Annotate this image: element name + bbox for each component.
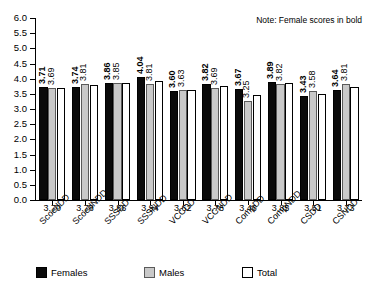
y-axis-tick: [30, 139, 35, 140]
y-axis-tick: [30, 79, 35, 80]
y-axis-tick-label: 5.0: [0, 43, 27, 53]
y-axis-tick-label: 3.5: [0, 89, 27, 99]
bar-value-label: 3.58: [308, 71, 317, 89]
bar-value-label: 3.81: [79, 64, 88, 82]
bar-males[interactable]: [309, 91, 317, 200]
bar-males[interactable]: [146, 84, 154, 200]
bar-group: 3.823.69: [199, 18, 232, 200]
y-axis-tick-label: 1.5: [0, 150, 27, 160]
bar-total[interactable]: [57, 88, 65, 200]
bar-total[interactable]: [220, 86, 228, 200]
bar-value-label: 3.69: [210, 68, 219, 86]
bar-group: 4.043.81: [134, 18, 167, 200]
bar-group: 3.433.58: [297, 18, 330, 200]
y-axis-tick-label: 0.0: [0, 195, 27, 205]
bar-males[interactable]: [179, 90, 187, 200]
y-axis-tick: [30, 124, 35, 125]
y-axis-tick: [30, 109, 35, 110]
bar-females[interactable]: [300, 96, 308, 200]
bar-total[interactable]: [285, 83, 293, 200]
bar-females[interactable]: [72, 87, 80, 200]
y-axis-tick-label: 4.5: [0, 59, 27, 69]
y-axis-tick-label: 0.5: [0, 180, 27, 190]
bar-value-label: 3.69: [47, 68, 56, 86]
y-axis-tick: [30, 33, 35, 34]
bar-value-label: 3.81: [145, 64, 154, 82]
bar-total[interactable]: [155, 81, 163, 201]
y-axis-tick: [30, 94, 35, 95]
y-axis-tick-label: 2.0: [0, 134, 27, 144]
y-axis-tick: [30, 170, 35, 171]
legend-label-males: Males: [159, 268, 184, 278]
bar-group: 3.643.81: [329, 18, 362, 200]
bar-group: 3.673.25: [232, 18, 265, 200]
y-axis-tick: [30, 185, 35, 186]
bar-group: 3.743.81: [69, 18, 102, 200]
bar-males[interactable]: [244, 101, 252, 200]
bar-total[interactable]: [122, 83, 130, 200]
bar-total[interactable]: [253, 95, 261, 200]
y-axis-tick-label: 2.5: [0, 119, 27, 129]
y-axis-tick: [30, 18, 35, 19]
chart-legend: FemalesMalesTotal: [36, 266, 336, 282]
bar-males[interactable]: [342, 84, 350, 200]
bar-value-label: 3.63: [177, 69, 186, 87]
bar-value-label: 3.25: [242, 81, 251, 99]
y-axis-tick: [30, 48, 35, 49]
y-axis-tick: [30, 155, 35, 156]
y-axis-tick-label: 5.5: [0, 28, 27, 38]
bar-total[interactable]: [187, 90, 195, 200]
plot-area: 3.713.693.743.813.863.854.043.813.603.63…: [36, 18, 362, 200]
y-axis-tick-label: 4.0: [0, 74, 27, 84]
y-axis-tick-label: 3.0: [0, 104, 27, 114]
legend-label-females: Females: [51, 268, 87, 278]
bar-females[interactable]: [137, 77, 145, 200]
y-axis-tick: [30, 64, 35, 65]
legend-swatch-total: [242, 267, 253, 278]
bar-group: 3.863.85: [101, 18, 134, 200]
bar-males[interactable]: [81, 84, 89, 200]
y-axis-tick: [30, 200, 35, 201]
bar-males[interactable]: [276, 84, 284, 200]
bar-value-label: 3.82: [275, 64, 284, 82]
legend-swatch-males: [144, 267, 155, 278]
bar-females[interactable]: [333, 90, 341, 200]
cut-off-title: [22, 0, 25, 2]
bar-females[interactable]: [105, 83, 113, 200]
legend-swatch-females: [36, 267, 47, 278]
bar-group: 3.713.69: [36, 18, 69, 200]
bar-males[interactable]: [48, 88, 56, 200]
y-axis-tick-label: 1.0: [0, 165, 27, 175]
y-axis-tick-label: 6.0: [0, 13, 27, 23]
bar-females[interactable]: [235, 89, 243, 200]
bar-total[interactable]: [90, 85, 98, 200]
bar-females[interactable]: [202, 84, 210, 200]
bar-total[interactable]: [350, 87, 358, 200]
bar-value-label: 3.85: [112, 63, 121, 81]
bar-males[interactable]: [113, 83, 121, 200]
bar-females[interactable]: [39, 87, 47, 200]
bar-value-label: 3.81: [340, 64, 349, 82]
grouped-bar-chart: Note: Female scores in bold 0.00.51.01.5…: [0, 0, 368, 288]
bar-total[interactable]: [318, 94, 326, 200]
bar-males[interactable]: [211, 88, 219, 200]
bar-females[interactable]: [170, 91, 178, 200]
bar-group: 3.893.82: [264, 18, 297, 200]
bar-females[interactable]: [268, 82, 276, 200]
legend-label-total: Total: [257, 268, 277, 278]
bar-group: 3.603.63: [166, 18, 199, 200]
